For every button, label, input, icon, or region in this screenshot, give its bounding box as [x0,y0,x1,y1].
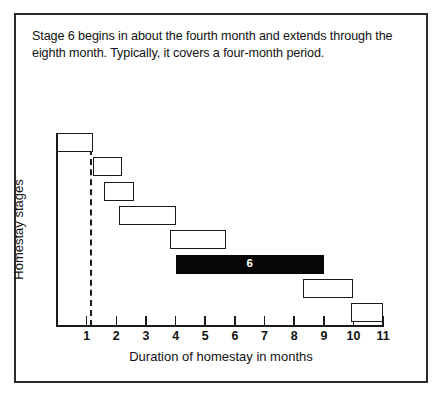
screenshot-root: Stage 6 begins in about the fourth month… [0,0,442,396]
caption-text: Stage 6 begins in about the fourth month… [32,28,400,62]
chart-card-frame [14,13,428,383]
